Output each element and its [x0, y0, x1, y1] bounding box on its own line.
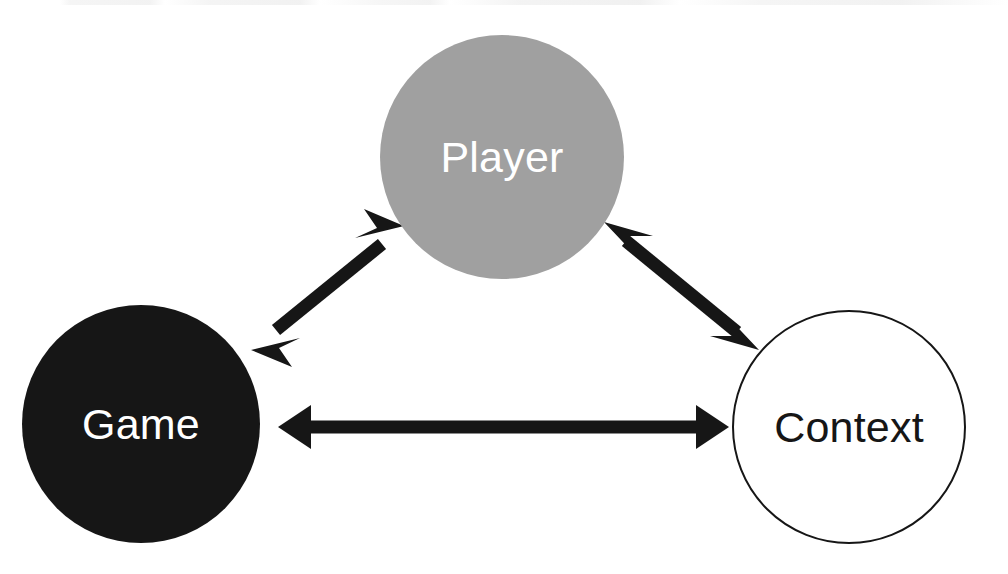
node-game[interactable]: Game — [22, 305, 260, 543]
edge-game-player-arrowhead-game — [251, 338, 300, 367]
edge-player-context-shaft — [626, 241, 737, 332]
edge-game-player-shaft — [276, 244, 382, 330]
edge-game-player[interactable] — [251, 209, 404, 367]
node-game-label: Game — [82, 403, 200, 446]
edge-game-context-arrowhead-game — [278, 405, 311, 449]
node-context[interactable]: Context — [732, 310, 966, 544]
edge-player-context[interactable] — [604, 222, 759, 350]
edge-game-context-arrowhead-context — [696, 405, 729, 449]
node-player[interactable]: Player — [380, 35, 624, 279]
node-context-label: Context — [774, 406, 924, 449]
node-player-label: Player — [440, 136, 563, 179]
diagram-canvas: Player Game Context — [0, 0, 1008, 574]
edge-game-context[interactable] — [278, 405, 729, 449]
